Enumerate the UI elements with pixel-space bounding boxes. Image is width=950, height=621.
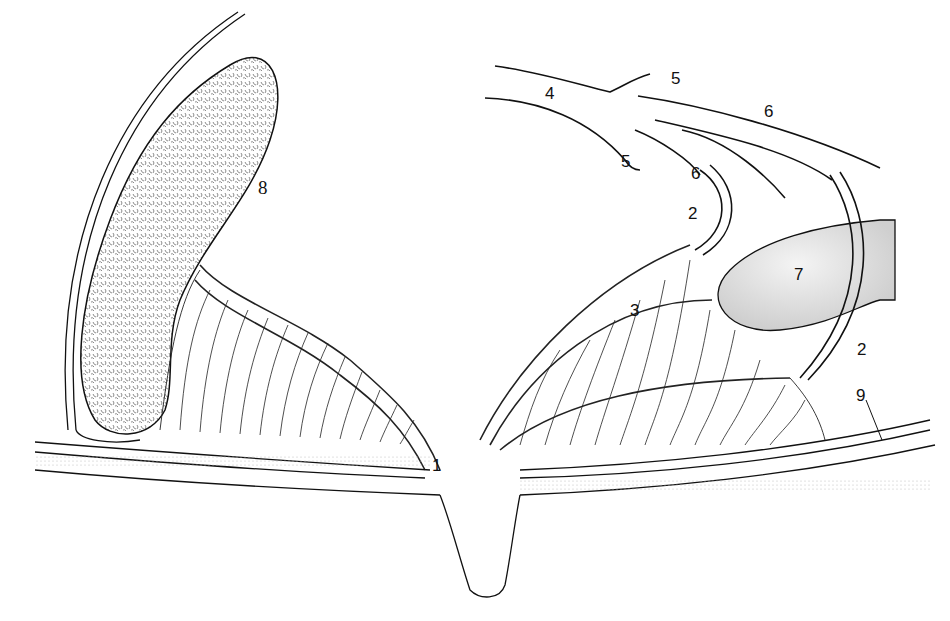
label-8: 8 [258,178,268,197]
structure-7 [718,220,895,330]
label-2a: 2 [688,205,697,222]
label-3: 3 [630,302,639,319]
floor-layers [35,420,935,597]
label-7: 7 [794,266,803,283]
label-1: 1 [432,457,441,474]
structure-8 [81,57,278,434]
vessels [485,66,880,380]
label-6b: 6 [691,165,700,182]
anatomical-diagram: 1 2 2 3 4 5 5 6 6 7 8 9 [0,0,950,621]
label-6a: 6 [764,103,773,120]
label-2b: 2 [857,341,866,358]
label-5b: 5 [621,153,630,170]
left-muscle [160,265,440,470]
diagram-artwork [0,0,950,621]
label-4: 4 [545,85,554,102]
label-5a: 5 [671,70,680,87]
label-9-leader [866,400,882,440]
label-9: 9 [856,387,865,404]
